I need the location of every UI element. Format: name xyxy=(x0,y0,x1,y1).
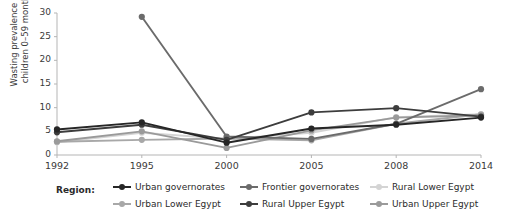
legend-item-label: Rural Upper Egypt xyxy=(262,199,344,209)
legend-marker-icon xyxy=(113,183,131,192)
data-point-marker xyxy=(308,136,314,142)
data-point-marker xyxy=(393,105,399,111)
x-axis-tick-label: 2014 xyxy=(458,160,504,171)
data-point-marker xyxy=(478,115,484,121)
series-frontier-governorates xyxy=(139,14,484,142)
data-point-marker xyxy=(139,128,145,134)
data-point-marker xyxy=(393,115,399,121)
data-point-marker xyxy=(308,109,314,115)
legend-title: Region: xyxy=(56,185,95,195)
legend-item-rural-upper-egypt[interactable]: Rural Upper Egypt xyxy=(240,199,344,209)
y-axis-tick-label: 20 xyxy=(29,54,51,64)
line-chart-svg xyxy=(57,13,481,155)
data-point-marker xyxy=(308,125,314,131)
legend-marker-icon xyxy=(113,200,131,209)
plot-area xyxy=(57,13,481,155)
y-axis-tick-label: 5 xyxy=(29,125,51,135)
legend-item-urban-governorates[interactable]: Urban governorates xyxy=(113,182,225,192)
x-axis-tick-label: 2005 xyxy=(288,160,334,171)
legend-marker-icon xyxy=(370,200,388,209)
chart-legend: Region: Urban governoratesFrontier gover… xyxy=(0,182,505,216)
legend-item-frontier-governorates[interactable]: Frontier governorates xyxy=(240,182,359,192)
legend-item-label: Urban Upper Egypt xyxy=(392,199,478,209)
data-point-marker xyxy=(478,86,484,92)
legend-item-label: Rural Lower Egypt xyxy=(392,182,474,192)
chart-container: Wasting prevalence among children 0–59 m… xyxy=(0,0,505,216)
legend-item-urban-upper-egypt[interactable]: Urban Upper Egypt xyxy=(370,199,478,209)
y-axis-tick-label: 15 xyxy=(29,78,51,88)
legend-marker-icon xyxy=(370,183,388,192)
x-axis-tick-label: 1992 xyxy=(34,160,80,171)
y-axis-tick-label: 10 xyxy=(29,102,51,112)
data-point-marker xyxy=(224,140,230,146)
legend-item-urban-lower-egypt[interactable]: Urban Lower Egypt xyxy=(113,199,221,209)
legend-marker-icon xyxy=(240,200,258,209)
y-axis-title: Wasting prevalence among children 0–59 m… xyxy=(9,0,30,104)
y-axis-tick-label: 25 xyxy=(29,31,51,41)
legend-item-label: Urban Lower Egypt xyxy=(135,199,221,209)
legend-item-label: Urban governorates xyxy=(135,182,225,192)
data-point-marker xyxy=(54,138,60,144)
data-point-marker xyxy=(139,137,145,143)
y-axis-tick-label: 0 xyxy=(29,149,51,159)
legend-item-label: Frontier governorates xyxy=(262,182,359,192)
series-urban-upper-egypt xyxy=(54,112,484,151)
legend-marker-icon xyxy=(240,183,258,192)
x-axis-tick-label: 2000 xyxy=(204,160,250,171)
x-axis-tick-label: 1995 xyxy=(119,160,165,171)
series-line xyxy=(57,115,481,148)
data-point-marker xyxy=(139,14,145,20)
data-point-marker xyxy=(54,126,60,132)
data-point-marker xyxy=(393,122,399,128)
x-axis-tick-label: 2008 xyxy=(373,160,419,171)
legend-item-rural-lower-egypt[interactable]: Rural Lower Egypt xyxy=(370,182,474,192)
data-point-marker xyxy=(139,119,145,125)
y-axis-tick-label: 30 xyxy=(29,7,51,17)
